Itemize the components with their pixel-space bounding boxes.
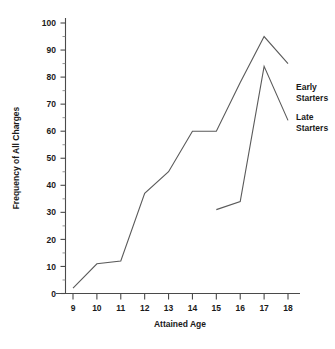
- series-line-early-starters: [73, 37, 288, 289]
- y-axis-title: Frequency of All Charges: [11, 106, 21, 209]
- series-labels: Early Starters Late Starters: [296, 82, 328, 133]
- y-tick-label: 90: [47, 45, 57, 55]
- y-tick-label: 70: [47, 99, 57, 109]
- x-tick-label: 18: [283, 303, 293, 313]
- y-axis-tick-labels: 0102030405060708090100: [42, 18, 56, 299]
- x-axis-ticks: [73, 294, 288, 300]
- x-axis: 9101112131415161718 Attained Age: [56, 294, 300, 330]
- series-label-early-starters-line2: Starters: [296, 93, 328, 103]
- line-chart: 0102030405060708090100 Frequency of All …: [0, 0, 335, 349]
- y-tick-label: 50: [47, 153, 57, 163]
- x-tick-label: 9: [71, 303, 76, 313]
- x-tick-label: 16: [235, 303, 245, 313]
- x-tick-label: 11: [116, 303, 125, 313]
- y-tick-label: 10: [47, 262, 57, 272]
- y-tick-label: 0: [51, 289, 56, 299]
- data-series-group: [73, 37, 288, 289]
- y-axis-ticks: [61, 23, 66, 294]
- chart-canvas: 0102030405060708090100 Frequency of All …: [0, 0, 335, 349]
- y-tick-label: 40: [47, 180, 57, 190]
- y-tick-label: 60: [47, 126, 57, 136]
- y-tick-label: 100: [42, 18, 56, 28]
- x-axis-tick-labels: 9101112131415161718: [71, 303, 293, 313]
- series-line-late-starters: [216, 66, 288, 209]
- series-label-early-starters-line1: Early: [296, 82, 317, 92]
- x-tick-label: 13: [164, 303, 174, 313]
- x-tick-label: 17: [259, 303, 269, 313]
- x-tick-label: 14: [188, 303, 198, 313]
- y-tick-label: 80: [47, 72, 57, 82]
- x-tick-label: 10: [92, 303, 102, 313]
- x-axis-title: Attained Age: [154, 319, 206, 329]
- x-tick-label: 12: [140, 303, 150, 313]
- y-tick-label: 30: [47, 207, 57, 217]
- series-label-late-starters-line1: Late: [296, 112, 314, 122]
- y-tick-label: 20: [47, 235, 57, 245]
- y-axis: 0102030405060708090100 Frequency of All …: [11, 18, 66, 299]
- x-tick-label: 15: [212, 303, 222, 313]
- series-label-late-starters-line2: Starters: [296, 123, 328, 133]
